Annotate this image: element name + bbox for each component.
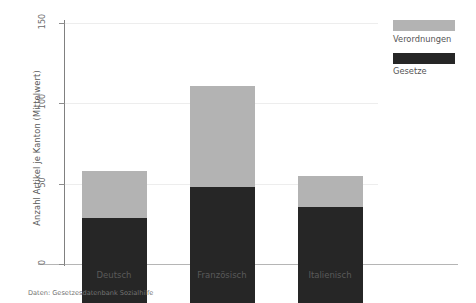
bar-deutsch-verordnungen[interactable] bbox=[82, 171, 147, 218]
y-tick-label-50-wrap: 50 bbox=[30, 178, 54, 190]
legend-label-gesetze: Gesetze bbox=[393, 66, 473, 76]
y-tick-mark-100 bbox=[59, 103, 65, 104]
y-tick-mark-0 bbox=[59, 264, 65, 265]
y-tick-label-150: 150 bbox=[38, 10, 47, 34]
source-note: Daten: Gesetzesdatenbank Sozialhilfe bbox=[28, 289, 153, 297]
y-tick-mark-50 bbox=[59, 184, 65, 185]
y-tick-label-0-wrap: 0 bbox=[30, 258, 54, 270]
y-tick-mark-150 bbox=[59, 23, 65, 24]
legend-swatch-verordnungen bbox=[393, 20, 455, 31]
bar-italienisch[interactable] bbox=[298, 39, 363, 303]
y-axis-title: Anzahl Artikel je Kanton (Mittelwert) bbox=[32, 33, 42, 263]
legend-label-verordnungen: Verordnungen bbox=[393, 34, 473, 44]
bar-franzoesisch-gesetze[interactable] bbox=[190, 187, 255, 303]
bar-deutsch[interactable] bbox=[82, 39, 147, 303]
gridline-150 bbox=[64, 23, 378, 24]
bar-franzoesisch[interactable] bbox=[190, 39, 255, 303]
y-tick-label-100: 100 bbox=[38, 90, 47, 114]
bar-italienisch-verordnungen[interactable] bbox=[298, 176, 363, 207]
y-tick-label-0: 0 bbox=[38, 251, 47, 275]
legend-entry-gesetze[interactable]: Gesetze bbox=[393, 53, 473, 77]
legend-entry-verordnungen[interactable]: Verordnungen bbox=[393, 20, 473, 44]
y-tick-label-100-wrap: 100 bbox=[30, 97, 54, 109]
y-axis-line bbox=[64, 20, 65, 266]
y-tick-label-150-wrap: 150 bbox=[30, 17, 54, 29]
legend-swatch-gesetze bbox=[393, 53, 455, 64]
x-axis-label-italienisch: Italienisch bbox=[275, 270, 385, 280]
y-tick-label-50: 50 bbox=[38, 171, 47, 195]
chart-legend: Verordnungen Gesetze bbox=[393, 20, 473, 85]
x-axis-label-deutsch: Deutsch bbox=[59, 270, 169, 280]
bar-chart-figure: Anzahl Artikel je Kanton (Mittelwert) 15… bbox=[0, 0, 476, 303]
x-axis-label-franzoesisch: Französisch bbox=[167, 270, 277, 280]
bar-italienisch-gesetze[interactable] bbox=[298, 207, 363, 303]
bar-franzoesisch-verordnungen[interactable] bbox=[190, 86, 255, 187]
